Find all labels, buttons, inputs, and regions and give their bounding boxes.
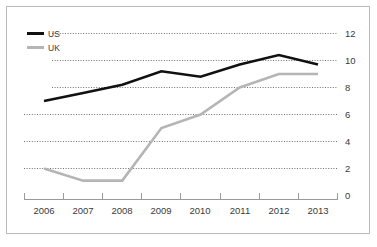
xtick-label-2013: 2013 — [307, 205, 328, 216]
ytick-label-6: 6 — [345, 109, 350, 120]
ytick-label-12: 12 — [345, 28, 356, 39]
legend-swatch-us-icon — [27, 32, 44, 36]
xtick-label-2008: 2008 — [111, 205, 132, 216]
xtick-label-2011: 2011 — [230, 205, 250, 216]
y-tick-labels-group: 12 10 8 6 4 2 0 — [345, 28, 356, 201]
ytick-label-2: 2 — [345, 163, 350, 174]
series-line-uk — [44, 74, 318, 181]
x-tick-labels-group: 2006 2007 2008 2009 2010 2011 2012 2013 — [33, 205, 328, 216]
xtick-label-2006: 2006 — [33, 205, 54, 216]
xtick-label-2009: 2009 — [150, 205, 171, 216]
legend-label-us: US — [48, 29, 60, 39]
legend-entry-uk[interactable]: UK — [27, 42, 60, 53]
x-axis-group — [24, 193, 338, 200]
legend-label-uk: UK — [48, 43, 60, 53]
xtick-label-2010: 2010 — [189, 205, 210, 216]
ytick-label-4: 4 — [345, 136, 350, 147]
xtick-label-2012: 2012 — [268, 205, 289, 216]
xtick-label-2007: 2007 — [72, 205, 93, 216]
chart-legend: US UK — [27, 28, 60, 53]
ytick-label-10: 10 — [345, 55, 356, 66]
ytick-label-8: 8 — [345, 82, 350, 93]
gridlines-group — [24, 34, 338, 169]
legend-entry-us[interactable]: US — [27, 28, 60, 39]
chart-figure: 12 10 8 6 4 2 0 2006 2007 2008 2009 2010… — [0, 0, 377, 247]
legend-swatch-uk-icon — [27, 46, 44, 49]
series-line-us — [44, 55, 318, 101]
ytick-label-0: 0 — [345, 190, 350, 201]
